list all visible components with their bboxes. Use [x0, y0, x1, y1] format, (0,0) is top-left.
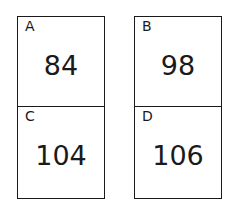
- card-label: B: [142, 18, 152, 34]
- card-label: D: [142, 108, 153, 124]
- card-value: 106: [135, 141, 221, 171]
- card-value: 84: [18, 51, 104, 81]
- card-a: A 84: [17, 16, 105, 107]
- card-column-right: B 98 D 106: [134, 16, 220, 199]
- card-d: D 106: [134, 107, 222, 199]
- card-value: 98: [135, 51, 221, 81]
- card-label: C: [25, 108, 35, 124]
- card-column-left: A 84 C 104: [17, 16, 103, 199]
- card-value: 104: [18, 141, 104, 171]
- card-b: B 98: [134, 16, 222, 107]
- card-c: C 104: [17, 107, 105, 199]
- card-label: A: [25, 18, 35, 34]
